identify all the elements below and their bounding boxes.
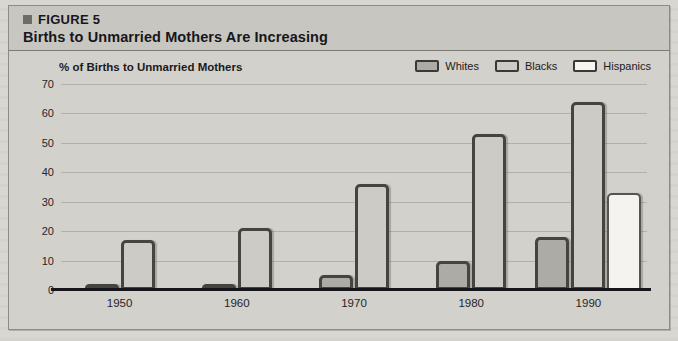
figure-number-row: FIGURE 5 [23, 11, 669, 27]
square-bullet-icon [23, 15, 32, 24]
bar-group-1950: 1950 [61, 84, 178, 290]
bar-blacks-1970 [355, 184, 389, 290]
legend-swatch-icon [415, 60, 439, 72]
x-axis-tick-label: 1970 [295, 297, 412, 309]
x-axis-tick-label: 1950 [61, 297, 178, 309]
x-axis-tick-label: 1980 [413, 297, 530, 309]
legend-item-hispanics: Hispanics [573, 60, 651, 72]
legend-item-blacks: Blacks [495, 60, 557, 72]
figure-number: FIGURE 5 [38, 12, 100, 27]
legend-swatch-icon [495, 60, 519, 72]
bar-group-1970: 1970 [295, 84, 412, 290]
x-axis-tick-label: 1990 [530, 297, 647, 309]
x-axis-line [51, 288, 651, 291]
figure-header: FIGURE 5 Births to Unmarried Mothers Are… [9, 6, 669, 51]
bar-groups: 19501960197019801990 [61, 84, 647, 290]
y-axis-tick-label: 30 [42, 196, 54, 208]
figure-title: Births to Unmarried Mothers Are Increasi… [23, 29, 669, 45]
bar-group-1990: 1990 [530, 84, 647, 290]
legend-label-whites: Whites [445, 60, 479, 72]
x-axis-tick-label: 1960 [178, 297, 295, 309]
bar-blacks-1950 [121, 240, 155, 290]
chart-legend: Whites Blacks Hispanics [415, 60, 651, 72]
legend-label-hispanics: Hispanics [603, 60, 651, 72]
figure-container: FIGURE 5 Births to Unmarried Mothers Are… [8, 5, 670, 330]
bar-group-1980: 1980 [413, 84, 530, 290]
legend-swatch-icon [573, 60, 597, 72]
bar-hispanics-1990 [607, 193, 641, 290]
y-axis-tick-label: 20 [42, 225, 54, 237]
plot-region: 706050403020100 19501960197019801990 [61, 84, 647, 290]
y-axis-tick-label: 40 [42, 166, 54, 178]
y-axis-tick-label: 70 [42, 78, 54, 90]
legend-label-blacks: Blacks [525, 60, 557, 72]
bar-blacks-1960 [238, 228, 272, 290]
y-axis-tick-label: 10 [42, 255, 54, 267]
bar-whites-1990 [535, 237, 569, 290]
bar-group-1960: 1960 [178, 84, 295, 290]
y-axis-tick-label: 50 [42, 137, 54, 149]
legend-item-whites: Whites [415, 60, 479, 72]
bar-blacks-1980 [472, 134, 506, 290]
bar-blacks-1990 [571, 102, 605, 290]
scanned-page: FIGURE 5 Births to Unmarried Mothers Are… [0, 0, 678, 341]
chart-area: % of Births to Unmarried Mothers Whites … [9, 51, 669, 329]
y-axis-tick-label: 60 [42, 107, 54, 119]
y-axis-title: % of Births to Unmarried Mothers [59, 61, 242, 73]
bar-whites-1980 [436, 261, 470, 290]
